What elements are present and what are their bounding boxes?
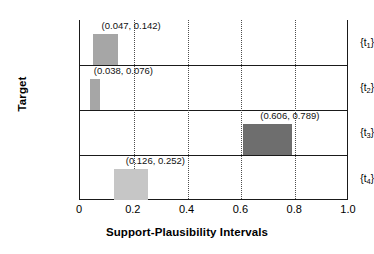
interval-bar (93, 34, 119, 65)
x-tick-label: 0.4 (167, 203, 207, 215)
y-tick-subscript: 2 (366, 86, 370, 95)
bar-value-label: (0.038, 0.076) (94, 66, 153, 76)
x-tick-label: 0.6 (220, 203, 260, 215)
x-tick-label: 0 (59, 203, 99, 215)
bar-value-label: (0.126, 0.252) (126, 156, 185, 166)
bar-value-label: (0.047, 0.142) (102, 21, 161, 31)
y-axis-title: Target (16, 44, 28, 144)
x-tick-label: 1.0 (328, 203, 368, 215)
chart-figure: Target {t1} {t2} {t3} {t4} (0.047, 0.142… (0, 0, 374, 254)
x-axis-title: Support-Plausibility Intervals (0, 226, 374, 238)
y-tick-subscript: 3 (366, 131, 370, 140)
gridline-0.4 (188, 20, 189, 199)
interval-bar (243, 124, 292, 155)
bar-value-label: (0.606, 0.789) (260, 111, 319, 121)
x-tick-label: 0.2 (113, 203, 153, 215)
y-tick-subscript: 1 (366, 41, 370, 50)
gridline-0.6 (241, 20, 242, 199)
x-tick-label: 0.8 (274, 203, 314, 215)
y-tick-subscript: 4 (366, 177, 370, 186)
interval-bar (90, 79, 100, 110)
interval-bar (114, 169, 148, 200)
plot-area: (0.047, 0.142)(0.038, 0.076)(0.606, 0.78… (79, 20, 348, 200)
